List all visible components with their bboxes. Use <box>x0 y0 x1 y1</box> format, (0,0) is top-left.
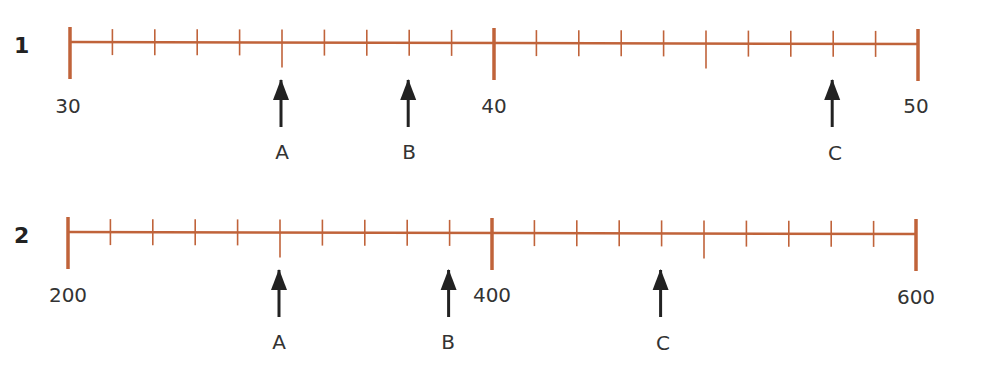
number-line-problem-2: 2 200 400 600 A B C <box>0 190 993 380</box>
arrow-label-c: C <box>656 331 670 355</box>
arrow-label-c: C <box>828 141 842 165</box>
arrow-label-b: B <box>402 140 416 164</box>
tick-label-mid: 400 <box>473 283 511 307</box>
tick-label-start: 200 <box>49 283 87 307</box>
arrow-up-icon <box>273 79 289 100</box>
arrow-label-a: A <box>272 330 286 354</box>
arrow-label-b: B <box>441 330 455 354</box>
tick-label-mid: 40 <box>481 94 506 118</box>
arrow-up-icon <box>271 269 287 290</box>
arrow-up-icon <box>441 269 457 290</box>
tick-label-start: 30 <box>55 94 80 118</box>
arrow-up-icon <box>400 79 416 100</box>
arrow-up-icon <box>824 79 840 100</box>
arrow-label-a: A <box>275 140 289 164</box>
tick-label-end: 50 <box>903 94 928 118</box>
number-line-problem-1: 1 30 40 50 A B C <box>0 0 993 190</box>
arrow-up-icon <box>653 269 669 290</box>
tick-label-end: 600 <box>897 285 935 309</box>
